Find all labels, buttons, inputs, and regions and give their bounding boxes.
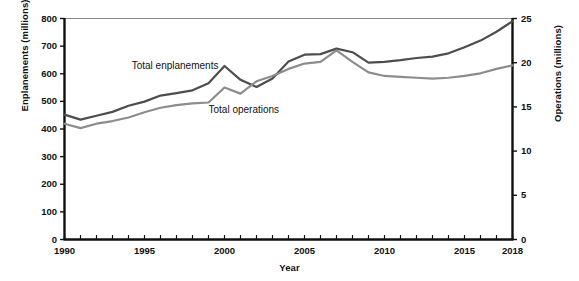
- data-series-lines: [65, 21, 513, 128]
- y-axis-left-tick-label: 600: [23, 68, 57, 79]
- y-axis-left-tick-label: 100: [23, 206, 57, 217]
- y-axis-right-tick-label: 25: [521, 13, 555, 24]
- y-axis-right-tick-label: 0: [521, 234, 555, 245]
- y-axis-right-tick-label: 15: [521, 101, 555, 112]
- y-axis-right-tick-label: 5: [521, 189, 555, 200]
- x-axis-tick-label: 2005: [285, 245, 325, 256]
- chart-figure: Enplanements (millions) Operations (mill…: [0, 0, 579, 281]
- axis-ticks: [60, 19, 517, 240]
- x-axis-tick-label: 2010: [365, 245, 405, 256]
- x-axis-tick-label: 1995: [125, 245, 165, 256]
- axes-frame: [64, 18, 514, 240]
- series-annotation-enplanements: Total enplanements: [132, 60, 219, 71]
- series-annotation-operations: Total operations: [209, 104, 280, 115]
- y-axis-left-tick-label: 300: [23, 151, 57, 162]
- x-axis-tick-label: 2018: [493, 245, 533, 256]
- y-axis-left-tick-label: 200: [23, 178, 57, 189]
- y-axis-left-tick-label: 0: [23, 234, 57, 245]
- y-axis-right-tick-label: 20: [521, 57, 555, 68]
- plot-area: [0, 0, 579, 281]
- x-axis-tick-label: 1990: [45, 245, 85, 256]
- y-axis-left-tick-label: 800: [23, 13, 57, 24]
- x-axis-tick-label: 2000: [205, 245, 245, 256]
- y-axis-left-tick-label: 700: [23, 40, 57, 51]
- y-axis-right-tick-label: 10: [521, 145, 555, 156]
- y-axis-left-tick-label: 500: [23, 95, 57, 106]
- x-axis-tick-label: 2015: [445, 245, 485, 256]
- y-axis-left-tick-label: 400: [23, 123, 57, 134]
